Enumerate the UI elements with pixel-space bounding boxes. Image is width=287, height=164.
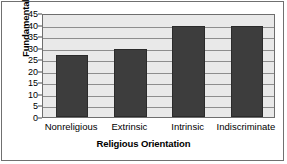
plot-area <box>42 14 275 118</box>
y-tick-label: 15 <box>28 79 38 88</box>
y-tick-label: 25 <box>28 56 38 65</box>
y-tick-label: 20 <box>28 67 38 76</box>
y-tick-label: 40 <box>28 21 38 30</box>
bar <box>56 55 89 117</box>
y-tick-label: 35 <box>28 33 38 42</box>
y-axis-tick-labels: 051015202530354045 <box>18 14 38 118</box>
bar <box>114 49 147 117</box>
y-tick-label: 30 <box>28 44 38 53</box>
x-tick-label: Intrinsic <box>171 120 204 133</box>
x-tick-label: Extrinsic <box>111 120 147 133</box>
y-tick-label: 10 <box>28 90 38 99</box>
x-axis-title: Religious Orientation <box>0 138 287 149</box>
x-tick-label: Nonreligious <box>45 120 98 133</box>
bar <box>231 26 264 117</box>
x-axis-tick-labels: NonreligiousExtrinsicIntrinsicIndiscrimi… <box>18 120 280 133</box>
chart-figure: Fundamentalism 051015202530354045 Nonrel… <box>0 0 287 164</box>
x-tick-label: Indiscriminate <box>217 120 276 133</box>
bar <box>172 26 205 117</box>
y-tick-label: 45 <box>28 10 38 19</box>
